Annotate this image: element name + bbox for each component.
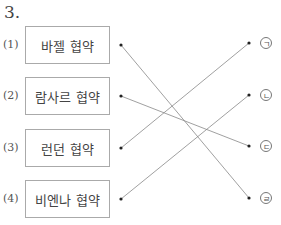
right-dot-c[interactable]	[247, 144, 250, 147]
answer-symbol-c: ㄷ	[260, 140, 272, 152]
right-dot-a[interactable]	[247, 41, 250, 44]
line-2-to-c	[121, 96, 249, 146]
right-dot-b[interactable]	[247, 93, 250, 96]
answer-symbol-a: ㄱ	[260, 37, 272, 49]
answer-symbol-d: ㄹ	[260, 192, 272, 204]
connection-lines	[0, 0, 281, 225]
left-dot-1[interactable]	[119, 43, 122, 46]
right-dot-d[interactable]	[247, 196, 250, 199]
line-4-to-b	[121, 95, 249, 199]
left-dot-4[interactable]	[119, 197, 122, 200]
left-dot-2[interactable]	[119, 94, 122, 97]
line-3-to-a	[121, 43, 249, 148]
left-dot-3[interactable]	[119, 146, 122, 149]
answer-symbol-b: ㄴ	[260, 89, 272, 101]
line-1-to-d	[121, 45, 249, 198]
